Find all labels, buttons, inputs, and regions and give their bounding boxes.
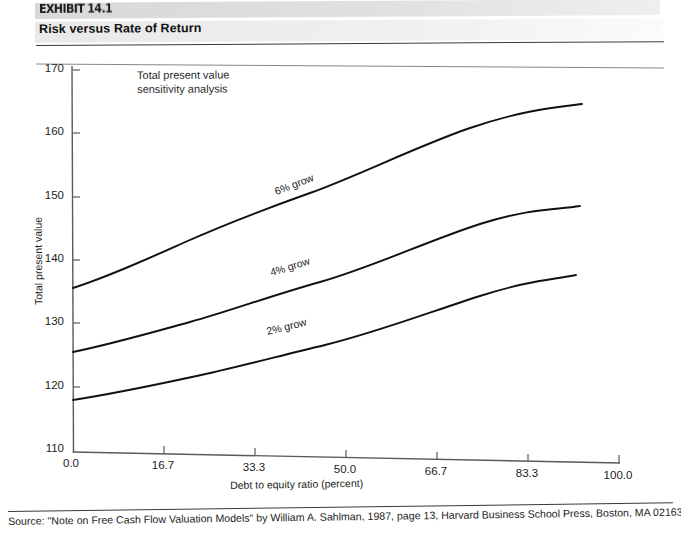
x-axis-title: Debt to equity ratio (percent): [230, 477, 363, 491]
y-tick-label-150: 150: [30, 189, 64, 201]
x-tick-label-50: 50.0: [323, 463, 367, 475]
x-tick-label-83-3: 83.3: [505, 467, 549, 479]
chart-annotation-line2: sensitivity analysis: [137, 82, 229, 96]
y-tick-label-160: 160: [30, 125, 64, 137]
frame-top-line: [36, 64, 664, 68]
chart-annotation: Total present value sensitivity analysis: [137, 68, 229, 96]
y-tick-label-110: 110: [30, 442, 64, 454]
exhibit-page: EXHIBIT 14.1 Risk versus Rate of Return: [0, 0, 681, 542]
x-tick-label-100: 100.0: [596, 469, 640, 481]
y-tick-label-170: 170: [30, 62, 64, 74]
series-line-4pct: [73, 206, 580, 352]
x-tick-label-66-7: 66.7: [414, 465, 458, 477]
y-axis-title: Total present value: [32, 201, 45, 321]
chart-svg: [0, 0, 681, 542]
x-tick-label-33-3: 33.3: [232, 461, 276, 473]
x-tick-label-0: 0.0: [49, 457, 93, 469]
x-tick-label-16-7: 16.7: [141, 459, 185, 471]
chart-annotation-line1: Total present value: [137, 68, 229, 82]
series-line-2pct: [73, 275, 576, 400]
series-line-6pct: [73, 104, 582, 288]
chart-plot-area: 170 160 150 140 130 120 110 0.0 16.7 33.…: [0, 0, 681, 542]
y-axis-line: [72, 66, 74, 452]
y-tick-label-120: 120: [30, 379, 64, 391]
